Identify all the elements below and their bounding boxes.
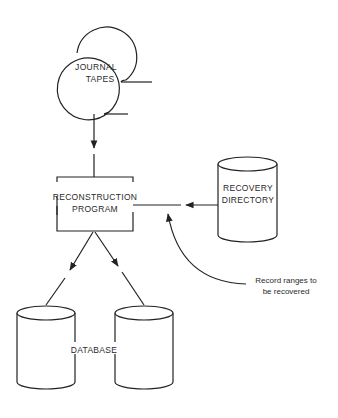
- journal-tapes-node: JOURNAL TAPES: [57, 27, 152, 120]
- recovery-flow-diagram: JOURNAL TAPES RECONSTRUCTION PROGRAM REC…: [0, 0, 338, 418]
- recovery-directory-node: RECOVERY DIRECTORY: [218, 157, 277, 242]
- annotation-line1: Record ranges to: [255, 276, 317, 285]
- journal-tapes-label-line1: JOURNAL: [75, 62, 117, 72]
- program-to-database-left-arrow: [46, 232, 93, 305]
- annotation-line2: be recovered: [263, 287, 310, 296]
- recovery-directory-label-line1: RECOVERY: [223, 183, 273, 193]
- database-label: DATABASE: [71, 345, 118, 355]
- recovery-directory-label-line2: DIRECTORY: [222, 195, 274, 205]
- reconstruction-program-label-line1: RECONSTRUCTION: [53, 192, 137, 202]
- program-to-database-right-arrow: [95, 232, 144, 305]
- reconstruction-program-node: RECONSTRUCTION PROGRAM: [53, 177, 137, 231]
- database-node: DATABASE: [17, 306, 173, 389]
- database-cylinder-left-icon: [17, 306, 75, 389]
- reconstruction-program-label-line2: PROGRAM: [72, 204, 118, 214]
- database-cylinder-right-icon: [115, 306, 173, 389]
- journal-tapes-label-line2: TAPES: [86, 74, 115, 84]
